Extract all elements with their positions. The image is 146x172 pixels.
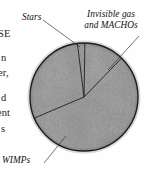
label-invisible-gas-machos: Invisible gas and MACHOs: [78, 9, 144, 30]
leader-line-stars: [43, 20, 80, 47]
figure-panel: SE n er, d ent s: [0, 0, 146, 172]
label-invisible-gas-line1: Invisible gas: [87, 9, 135, 19]
label-stars: Stars: [22, 12, 41, 23]
label-invisible-gas-line2: and MACHOs: [84, 20, 137, 30]
pie-body: [29, 43, 138, 172]
label-wimps: WIMPs: [2, 155, 30, 166]
